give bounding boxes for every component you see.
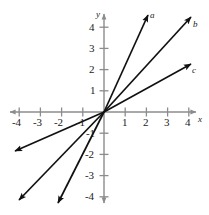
line-b [104, 17, 191, 112]
y-tick-label--4: -4 [85, 191, 94, 202]
x-tick-label--2: -2 [54, 117, 63, 128]
x-tick-label-2: 2 [143, 117, 148, 128]
y-tick-label--1: -1 [86, 128, 95, 139]
y-tick-label-2: 2 [89, 64, 94, 75]
graph-figure: -4 -3 -2 -1 1 2 3 4 4 3 2 1 -1 -2 -3 -4 … [0, 0, 209, 215]
line-label-b: b [193, 20, 198, 29]
line-label-a: a [150, 11, 155, 20]
x-tick-label--4: -4 [12, 117, 21, 128]
line-a [104, 15, 148, 112]
x-axis-label: x [198, 115, 202, 124]
x-tick-label-3: 3 [164, 117, 169, 128]
y-tick-label-3: 3 [89, 43, 94, 54]
coordinate-plane [0, 0, 209, 215]
y-axis-label: y [96, 10, 100, 19]
x-tick-label--1: -1 [76, 117, 85, 128]
y-tick-label-1: 1 [90, 85, 95, 96]
x-tick-label--3: -3 [33, 117, 42, 128]
y-tick-label--3: -3 [85, 170, 94, 181]
line-label-c: c [192, 66, 196, 75]
plotted-lines [15, 15, 191, 203]
x-tick-label-4: 4 [185, 117, 190, 128]
y-tick-label--2: -2 [85, 149, 94, 160]
x-tick-label-1: 1 [122, 117, 127, 128]
y-tick-label-4: 4 [89, 22, 94, 33]
line-c [104, 64, 191, 112]
